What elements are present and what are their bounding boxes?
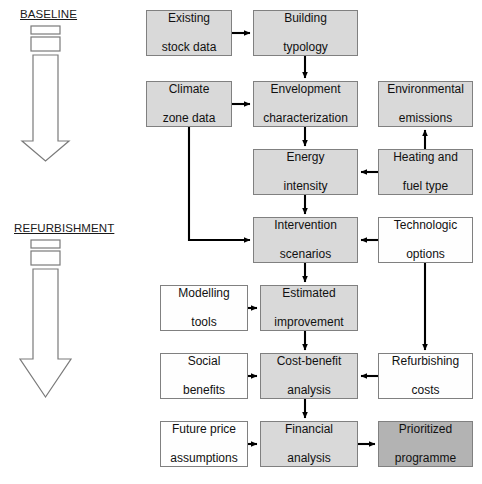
node-label-line: Climate: [163, 82, 216, 97]
flowchart-canvas: BASELINE REFURBISHMENT Existing stock da…: [0, 0, 482, 484]
node-estimated-improvement[interactable]: Estimated improvement: [260, 285, 358, 331]
node-label-line: Intervention: [274, 218, 337, 233]
node-intervention-scenarios[interactable]: Intervention scenarios: [253, 217, 358, 263]
phase-label-baseline: BASELINE: [20, 8, 77, 20]
node-building-typology[interactable]: Building typology: [253, 10, 358, 56]
node-label-line: Future price: [170, 422, 237, 437]
node-label-line: Social: [183, 354, 225, 369]
edge-climate-zone-to-intervention: [189, 127, 250, 240]
node-label-line: intensity: [283, 179, 327, 194]
node-label-line: Envelopment: [263, 82, 348, 97]
node-label-line: Financial: [285, 422, 333, 437]
node-energy-intensity[interactable]: Energy intensity: [253, 149, 358, 195]
node-label-line: Prioritized: [395, 422, 456, 437]
baseline-tick-1: [31, 26, 60, 34]
node-label-line: Building: [283, 11, 328, 26]
node-cost-benefit-analysis[interactable]: Cost-benefit analysis: [260, 353, 358, 399]
node-social-benefits[interactable]: Social benefits: [160, 353, 248, 399]
node-prioritized-programme[interactable]: Prioritized programme: [378, 421, 473, 467]
refurbishment-down-arrow: [20, 269, 71, 397]
node-financial-analysis[interactable]: Financial analysis: [260, 421, 358, 467]
phase-marker-refurbishment: [20, 240, 71, 397]
node-label-line: costs: [392, 383, 459, 398]
node-label-line: options: [394, 247, 457, 262]
node-label-line: Refurbishing: [392, 354, 459, 369]
baseline-down-arrow: [22, 55, 69, 161]
node-heating-and-fuel-type[interactable]: Heating and fuel type: [378, 149, 473, 195]
node-label-line: Environmental: [387, 82, 464, 97]
node-label-line: Technologic: [394, 218, 457, 233]
node-label-line: scenarios: [274, 247, 337, 262]
node-label-line: stock data: [162, 40, 217, 55]
node-label-line: Heating and: [393, 150, 458, 165]
node-technologic-options[interactable]: Technologic options: [378, 217, 473, 263]
node-label-line: Energy: [283, 150, 327, 165]
node-existing-stock-data[interactable]: Existing stock data: [146, 10, 232, 56]
node-label-line: characterization: [263, 111, 348, 126]
node-label-line: typology: [283, 40, 328, 55]
node-label-line: analysis: [285, 451, 333, 466]
node-label-line: benefits: [183, 383, 225, 398]
refurbishment-tick-2: [31, 251, 60, 265]
node-environmental-emissions[interactable]: Environmental emissions: [378, 81, 473, 127]
node-refurbishing-costs[interactable]: Refurbishing costs: [378, 353, 473, 399]
node-climate-zone-data[interactable]: Climate zone data: [146, 81, 232, 127]
node-future-price-assumptions[interactable]: Future price assumptions: [160, 421, 248, 467]
node-label-line: analysis: [277, 383, 342, 398]
node-label-line: programme: [395, 451, 456, 466]
node-label-line: Cost-benefit: [277, 354, 342, 369]
node-label-line: assumptions: [170, 451, 237, 466]
node-label-line: tools: [178, 315, 229, 330]
node-label-line: zone data: [163, 111, 216, 126]
node-modelling-tools[interactable]: Modelling tools: [160, 285, 248, 331]
node-label-line: Estimated: [274, 286, 343, 301]
refurbishment-tick-1: [31, 240, 60, 248]
node-label-line: Modelling: [178, 286, 229, 301]
node-label-line: fuel type: [393, 179, 458, 194]
node-envelopment-characterization[interactable]: Envelopment characterization: [253, 81, 358, 127]
phase-marker-baseline: [22, 26, 69, 161]
node-label-line: emissions: [387, 111, 464, 126]
node-label-line: improvement: [274, 315, 343, 330]
baseline-tick-2: [31, 37, 60, 51]
phase-label-refurbishment: REFURBISHMENT: [14, 222, 114, 234]
node-label-line: Existing: [162, 11, 217, 26]
